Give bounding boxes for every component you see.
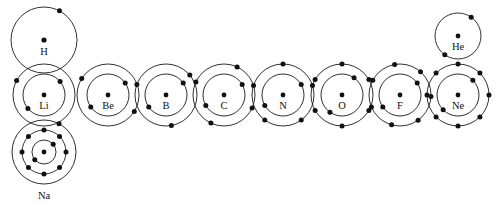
atom-helium: He	[435, 13, 481, 59]
element-symbol-neon: Ne	[452, 100, 465, 111]
element-symbol-hydrogen: H	[40, 46, 48, 57]
nucleus-boron	[164, 93, 169, 98]
electron-be-s1-1	[123, 80, 128, 85]
electron-ne-s2-4	[477, 114, 482, 119]
electron-na-s2-4	[57, 165, 62, 170]
electron-be-s1-2	[88, 105, 93, 110]
atom-oxygen: O	[311, 62, 373, 129]
nucleus-fluorine	[398, 93, 403, 98]
electron-n-s1-1	[299, 82, 304, 87]
atom-nitrogen: N	[251, 62, 315, 127]
atoms-layer: HHeLiBeBCNOFNeNa	[11, 7, 492, 201]
element-symbol-boron: B	[162, 100, 169, 111]
electron-b-s2-3	[169, 123, 174, 128]
electron-be-s2-1	[79, 76, 84, 81]
nucleus-oxygen	[340, 93, 345, 98]
electron-c-s2-2	[235, 64, 240, 69]
electron-ne-s1-1	[470, 78, 475, 83]
atom-boron: B	[134, 64, 197, 128]
electron-he-s1-2	[442, 52, 447, 57]
electron-c-s1-2	[203, 103, 208, 108]
electron-be-s2-2	[132, 109, 137, 114]
electron-n-s2-3	[299, 118, 304, 123]
electron-f-s2-7	[370, 78, 375, 83]
electron-na-s3-1	[57, 121, 62, 126]
electron-na-s2-3	[64, 150, 69, 155]
nucleus-nitrogen	[281, 93, 286, 98]
nucleus-sodium	[42, 150, 47, 155]
electron-n-s2-5	[251, 83, 256, 88]
atom-hydrogen: H	[11, 7, 77, 73]
electron-o-s2-4	[340, 124, 345, 129]
element-symbol-oxygen: O	[338, 100, 346, 111]
nucleus-lithium	[42, 93, 47, 98]
nucleus-hydrogen	[41, 37, 46, 42]
atom-neon: Ne	[425, 62, 492, 129]
electron-o-s2-6	[313, 77, 318, 82]
electron-b-s1-1	[181, 80, 186, 85]
electron-f-s1-1	[415, 80, 420, 85]
electron-na-s2-5	[42, 172, 47, 177]
bohr-model-diagram: HHeLiBeBCNOFNeNa	[0, 0, 498, 203]
electron-o-s1-1	[352, 75, 357, 80]
electron-ne-s2-5	[456, 124, 461, 129]
electron-ne-s1-2	[441, 107, 446, 112]
electron-ne-s2-2	[477, 71, 482, 76]
electron-n-s1-2	[262, 103, 267, 108]
electron-n-s2-4	[262, 118, 267, 123]
element-symbol-sodium: Na	[38, 190, 51, 201]
element-symbol-carbon: C	[220, 100, 227, 111]
atom-carbon: C	[193, 64, 255, 126]
electron-c-s1-1	[240, 82, 245, 87]
electron-li-s1-2	[25, 106, 30, 111]
element-symbol-beryllium: Be	[102, 100, 114, 111]
electron-na-s1-1	[51, 142, 56, 147]
atom-fluorine: F	[369, 62, 434, 127]
electron-ne-s2-3	[487, 93, 492, 98]
electron-b-s1-2	[146, 105, 151, 110]
electron-ne-s2-7	[425, 93, 430, 98]
electron-b-s2-1	[134, 82, 139, 87]
electron-f-s2-4	[416, 118, 421, 123]
electron-o-s2-5	[313, 108, 318, 113]
electron-na-s2-2	[57, 134, 62, 139]
element-symbol-lithium: Li	[39, 100, 48, 111]
electron-b-s2-2	[187, 73, 192, 78]
electron-n-s2-1	[281, 62, 286, 67]
electron-na-s1-2	[32, 157, 37, 162]
atom-sodium: Na	[12, 120, 76, 201]
electron-li-s2-1	[14, 78, 19, 83]
electron-na-s2-7	[20, 150, 25, 155]
electron-f-s2-5	[389, 122, 394, 127]
electron-c-s2-4	[208, 121, 213, 126]
element-symbol-helium: He	[452, 41, 465, 52]
nucleus-helium	[456, 34, 461, 39]
electron-na-s2-8	[26, 134, 31, 139]
electron-na-s2-6	[26, 165, 31, 170]
nucleus-carbon	[222, 93, 227, 98]
electron-f-s2-6	[369, 105, 374, 110]
electron-ne-s2-1	[456, 62, 461, 67]
element-symbol-fluorine: F	[397, 100, 403, 111]
electron-f-s1-2	[380, 105, 385, 110]
electron-h-s1-1	[57, 8, 62, 13]
nucleus-beryllium	[106, 93, 111, 98]
electron-o-s2-1	[340, 62, 345, 67]
electron-ne-s2-8	[434, 71, 439, 76]
atom-beryllium: Be	[77, 64, 139, 126]
element-symbol-nitrogen: N	[279, 100, 287, 111]
electron-o-s1-2	[327, 110, 332, 115]
electron-f-s2-2	[418, 69, 423, 74]
electron-f-s2-1	[392, 62, 397, 67]
electron-c-s2-1	[193, 79, 198, 84]
electron-ne-s2-6	[434, 114, 439, 119]
electron-he-s1-1	[469, 15, 474, 20]
bohr-diagram-canvas: HHeLiBeBCNOFNeNa	[0, 0, 498, 203]
electron-na-s2-1	[42, 128, 47, 133]
electron-li-s1-1	[58, 79, 63, 84]
nucleus-neon	[456, 93, 461, 98]
